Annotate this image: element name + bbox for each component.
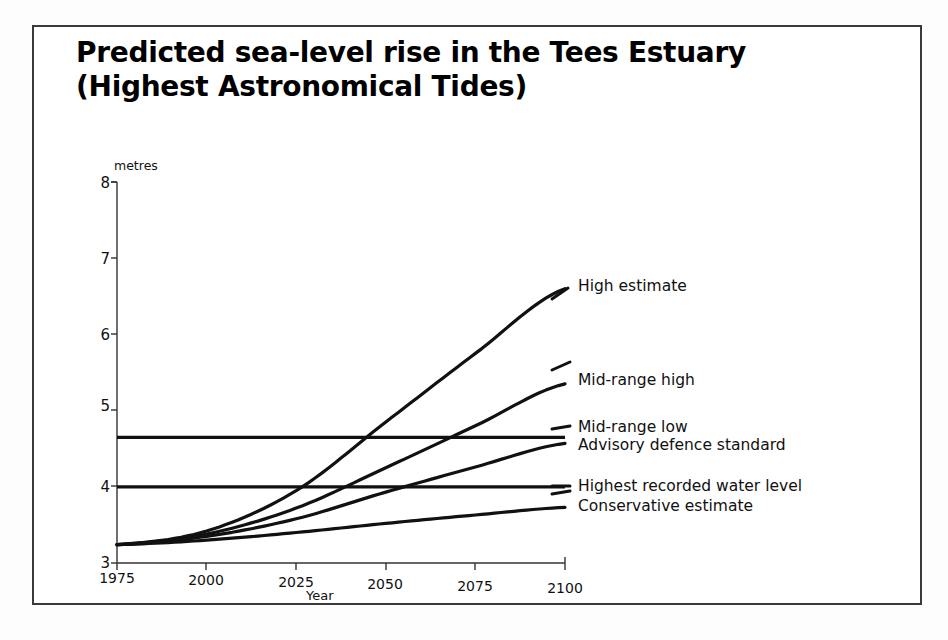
series-line-mid-range-high [117,384,565,545]
y-axis-ticks [111,182,117,563]
figure-canvas: Predicted sea-level rise in the Tees Est… [0,0,948,640]
plot-area [0,0,948,640]
x-axis-ticks [117,563,565,570]
label-leader-marks [552,288,570,494]
